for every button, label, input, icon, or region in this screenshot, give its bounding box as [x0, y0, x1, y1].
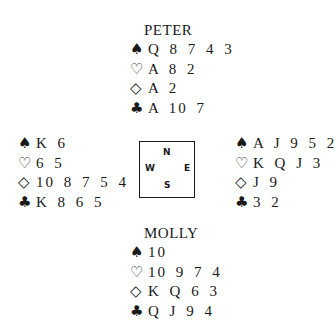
south-player-name: MOLLY [130, 223, 222, 243]
compass-west: W [145, 163, 155, 173]
spade-icon: ♠ [130, 243, 148, 263]
east-spades-row: ♠A J 9 5 2 [235, 134, 336, 154]
compass-east: E [184, 163, 190, 173]
west-hearts-row: ♡6 5 [18, 154, 128, 174]
club-icon: ♣ [130, 302, 148, 322]
heart-icon: ♡ [130, 263, 148, 283]
spade-icon: ♠ [235, 134, 253, 154]
diamond-icon: ◇ [130, 79, 148, 99]
south-diamonds: K Q 6 3 [148, 283, 219, 299]
club-icon: ♣ [235, 193, 253, 213]
diamond-icon: ◇ [18, 173, 36, 193]
east-hearts: K Q J 3 [253, 155, 322, 171]
spade-icon: ♠ [130, 40, 148, 60]
north-clubs-row: ♣A 10 7 [130, 99, 234, 119]
north-clubs: A 10 7 [148, 100, 206, 116]
west-clubs-row: ♣K 8 6 5 [18, 193, 128, 213]
east-clubs-row: ♣3 2 [235, 193, 336, 213]
west-hand: ♠K 6 ♡6 5 ◇10 8 7 5 4 ♣K 8 6 5 [18, 134, 128, 212]
east-hand: ♠A J 9 5 2 ♡K Q J 3 ◇J 9 ♣3 2 [235, 134, 336, 212]
north-diamonds-row: ◇A 2 [130, 79, 234, 99]
east-spades: A J 9 5 2 [253, 135, 336, 151]
south-clubs-row: ♣Q J 9 4 [130, 302, 222, 322]
club-icon: ♣ [130, 99, 148, 119]
south-spades: 10 [148, 244, 167, 260]
north-spades: Q 8 7 4 3 [148, 41, 234, 57]
heart-icon: ♡ [130, 60, 148, 80]
west-spades: K 6 [36, 135, 67, 151]
spade-icon: ♠ [18, 134, 36, 154]
south-hearts-row: ♡10 9 7 4 [130, 263, 222, 283]
west-diamonds-row: ◇10 8 7 5 4 [18, 173, 128, 193]
west-spades-row: ♠K 6 [18, 134, 128, 154]
west-hearts: 6 5 [36, 155, 64, 171]
south-diamonds-row: ◇K Q 6 3 [130, 282, 222, 302]
north-hand: PETER ♠Q 8 7 4 3 ♡A 8 2 ◇A 2 ♣A 10 7 [130, 20, 234, 118]
compass-north: N [163, 147, 171, 157]
heart-icon: ♡ [18, 154, 36, 174]
north-diamonds: A 2 [148, 80, 178, 96]
north-hearts-row: ♡A 8 2 [130, 60, 234, 80]
east-hearts-row: ♡K Q J 3 [235, 154, 336, 174]
north-hearts: A 8 2 [148, 61, 197, 77]
south-hearts: 10 9 7 4 [148, 264, 222, 280]
north-spades-row: ♠Q 8 7 4 3 [130, 40, 234, 60]
heart-icon: ♡ [235, 154, 253, 174]
south-clubs: Q J 9 4 [148, 303, 214, 319]
compass-south: S [164, 180, 170, 190]
north-player-name: PETER [130, 20, 234, 40]
compass-box: N W E S [139, 141, 195, 198]
club-icon: ♣ [18, 193, 36, 213]
east-diamonds-row: ◇J 9 [235, 173, 336, 193]
south-spades-row: ♠10 [130, 243, 222, 263]
west-diamonds: 10 8 7 5 4 [36, 174, 128, 190]
diamond-icon: ◇ [235, 173, 253, 193]
south-hand: MOLLY ♠10 ♡10 9 7 4 ◇K Q 6 3 ♣Q J 9 4 [130, 223, 222, 321]
diamond-icon: ◇ [130, 282, 148, 302]
east-clubs: 3 2 [253, 194, 281, 210]
east-diamonds: J 9 [253, 174, 279, 190]
west-clubs: K 8 6 5 [36, 194, 104, 210]
